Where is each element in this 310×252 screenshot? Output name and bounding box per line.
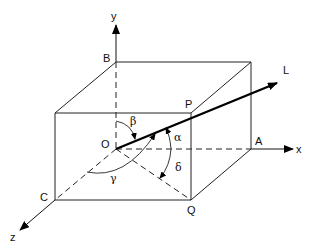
label-y: y — [111, 10, 117, 22]
top-left-edge — [55, 62, 116, 113]
box-direction-angles-diagram: y x z B O A C P Q L α β γ δ — [0, 0, 310, 252]
gamma-arc — [87, 134, 155, 173]
hidden-oq-line — [116, 149, 191, 200]
label-o: O — [101, 138, 110, 150]
label-beta: β — [130, 115, 136, 128]
z-axis — [20, 200, 55, 230]
label-p: P — [185, 98, 192, 110]
box-edges — [55, 62, 251, 200]
hidden-z-edge — [55, 149, 116, 200]
label-b: B — [103, 52, 110, 64]
right-bottom-edge — [191, 149, 251, 200]
label-a: A — [255, 135, 263, 147]
alpha-arc — [166, 128, 171, 149]
label-x: x — [296, 143, 302, 155]
label-alpha: α — [174, 131, 182, 144]
label-delta: δ — [175, 161, 182, 174]
label-z: z — [10, 231, 16, 243]
label-c: C — [40, 191, 48, 203]
delta-arc — [160, 149, 171, 178]
label-gamma: γ — [110, 172, 117, 185]
label-l: L — [283, 64, 289, 76]
line-ol — [116, 83, 277, 149]
label-q: Q — [187, 204, 196, 216]
hidden-edges — [55, 62, 251, 200]
axes — [20, 25, 293, 230]
